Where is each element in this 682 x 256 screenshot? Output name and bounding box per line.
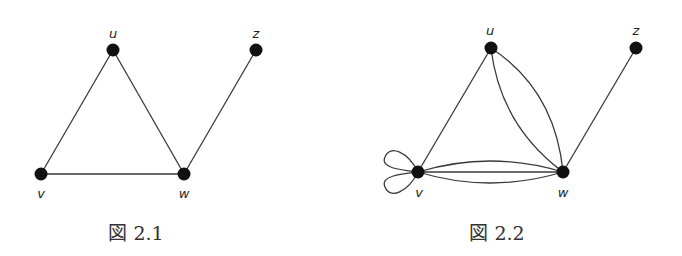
figure-caption: 図 2.1 <box>108 222 163 244</box>
vertex-label-v: v <box>415 185 423 200</box>
figure-2-2: u z v w 図 2.2 <box>384 23 642 244</box>
vertex-v <box>35 168 48 181</box>
edge-w-z <box>184 50 256 174</box>
figure-2-1: u z v w 図 2.1 <box>35 26 263 244</box>
vertex-label-u: u <box>486 23 494 38</box>
edge-u-w <box>113 50 184 174</box>
vertex-u <box>107 44 120 57</box>
edge-u-v <box>418 48 491 172</box>
edge-u-v <box>41 50 113 174</box>
graph-figures: u z v w 図 2.1 u z v w 図 2.2 <box>0 0 682 256</box>
vertex-label-v: v <box>37 186 45 201</box>
vertex-label-w: w <box>179 186 190 201</box>
vertex-label-w: w <box>558 185 569 200</box>
vertex-z <box>630 42 643 55</box>
edge-u-w-1 <box>491 48 563 172</box>
edge-v-w-3 <box>418 172 563 183</box>
vertex-z <box>250 44 263 57</box>
edge-u-w-2 <box>491 48 563 172</box>
edge-w-z <box>563 48 636 172</box>
vertex-v <box>412 166 425 179</box>
figure-caption: 図 2.2 <box>469 222 524 244</box>
vertex-w <box>178 168 191 181</box>
vertex-w <box>557 166 570 179</box>
vertex-label-u: u <box>109 26 117 41</box>
vertex-label-z: z <box>632 23 641 38</box>
edge-v-w-1 <box>418 161 563 172</box>
vertex-u <box>485 42 498 55</box>
vertex-label-z: z <box>252 26 261 41</box>
